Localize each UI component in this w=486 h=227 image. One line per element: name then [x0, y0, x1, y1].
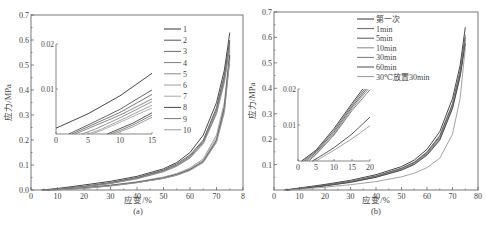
chart-a: 01020304050607080.00.10.20.30.40.50.60.7… [3, 11, 245, 216]
x-tick-label: 50 [160, 192, 168, 201]
y-tick-label: 0.1 [262, 161, 272, 170]
y-tick-label: 0.3 [19, 111, 29, 120]
x-tick-label: 10 [54, 192, 62, 201]
y-tick-label: 0.6 [19, 36, 29, 45]
inset-x-tick-label: 10 [116, 136, 124, 145]
legend-label: 1min [376, 25, 392, 34]
x-tick-label: 20 [80, 192, 88, 201]
series-line-7 [47, 53, 230, 191]
inset-series-line-10 [114, 117, 152, 134]
legend-label: 5min [376, 34, 392, 43]
inset-series-line-3 [305, 89, 366, 161]
x-tick-label: 70 [449, 192, 457, 201]
inset-x-tick-label: 10 [330, 163, 338, 172]
x-tick-label: 60 [423, 192, 431, 201]
inset-series-line-4 [75, 99, 152, 134]
y-tick-label: 0.4 [262, 84, 272, 93]
legend-label: 8 [183, 103, 187, 112]
legend-label: 1 [183, 25, 187, 34]
y-tick-label: 0.1 [19, 161, 29, 170]
series-line-5 [44, 48, 230, 191]
legend-label: 30min [376, 53, 396, 62]
legend-label: 2 [183, 36, 187, 45]
y-tick-label: 0.0 [19, 186, 29, 195]
y-tick-label: 0.5 [19, 61, 29, 70]
legend-label: 第一次 [376, 14, 400, 24]
legend-label: 30℃放置30min [376, 72, 429, 82]
inset-series-line-1 [302, 89, 363, 161]
legend-label: 5 [183, 70, 187, 79]
legend-label: 10min [376, 44, 396, 53]
inset-y-tick-label: 0.01 [41, 85, 54, 94]
y-tick-label: 0.2 [262, 135, 272, 144]
inset-x-tick-label: 0 [296, 163, 300, 172]
inset-x-tick-label: 0 [54, 136, 58, 145]
inset-y-tick-label: 0.01 [283, 121, 296, 130]
x-tick-label: 30 [107, 192, 115, 201]
x-tick-label: 30 [347, 192, 355, 201]
figure: 01020304050607080.00.10.20.30.40.50.60.7… [0, 0, 486, 227]
x-tick-label: 0 [29, 192, 33, 201]
series-line-3 [44, 43, 230, 191]
inset-y-tick-label: 0.02 [41, 40, 54, 49]
inset-y-tick-label: 0.02 [283, 85, 296, 94]
panel-caption: (b) [371, 206, 381, 216]
inset-x-tick-label: 15 [348, 163, 356, 172]
y-tick-label: 0.5 [262, 59, 272, 68]
y-tick-label: 0.7 [19, 11, 29, 20]
series-line-4 [44, 45, 230, 190]
y-tick-label: 0.7 [262, 8, 272, 17]
panel-caption: (a) [133, 206, 143, 216]
inset-series-line-5 [82, 102, 152, 134]
legend-label: 9 [183, 115, 187, 124]
y-axis-label: 应力/MPa [247, 83, 257, 120]
y-tick-label: 0.2 [19, 136, 29, 145]
legend-label: 3 [183, 47, 187, 56]
y-tick-label: 0.4 [19, 86, 29, 95]
y-tick-label: 0.6 [262, 33, 272, 42]
series-line-1 [42, 33, 230, 191]
x-tick-label: 60 [186, 192, 194, 201]
x-tick-label: 8 [241, 192, 245, 201]
x-tick-label: 20 [321, 192, 329, 201]
legend-label: 60min [376, 63, 396, 72]
x-tick-label: 50 [398, 192, 406, 201]
legend-label: 10 [183, 126, 191, 135]
y-axis-label: 应力/MPa [3, 84, 13, 121]
inset-series-line-2 [69, 90, 152, 134]
x-tick-label: 0 [272, 192, 276, 201]
inset-x-tick-label: 5 [86, 136, 90, 145]
x-tick-label: 10 [296, 192, 304, 201]
x-axis-label: 应变/% [124, 195, 151, 205]
series-line-1 [284, 27, 465, 190]
legend-label: 6 [183, 81, 187, 90]
inset-series-line-9 [110, 115, 152, 134]
chart-b: 010203040506070800.10.20.30.40.50.60.7应变… [247, 8, 482, 216]
y-tick-label: 0.3 [262, 110, 272, 119]
inset-x-tick-label: 5 [314, 163, 318, 172]
legend-label: 7 [183, 92, 187, 101]
inset-x-tick-label: 20 [366, 163, 374, 172]
x-tick-label: 80 [474, 192, 482, 201]
series-line-10 [50, 60, 230, 190]
x-axis-label: 应变/% [362, 195, 389, 205]
x-tick-label: 70 [213, 192, 221, 201]
inset-x-tick-label: 15 [148, 136, 156, 145]
legend-label: 4 [183, 59, 187, 68]
